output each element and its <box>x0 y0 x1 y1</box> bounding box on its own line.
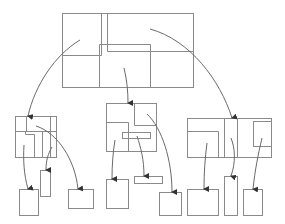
arrow-root-right <box>150 29 232 118</box>
arrow-right-leaf7 <box>204 143 207 189</box>
leaf-5 <box>135 177 163 184</box>
arrow-middle-leaf5 <box>137 136 144 176</box>
arrow-left-leaf2 <box>46 147 52 170</box>
leaf-nodes <box>20 171 263 216</box>
leaf-8 <box>225 177 238 216</box>
root-node <box>63 14 194 88</box>
tree-diagram <box>0 0 285 224</box>
edges <box>24 29 262 192</box>
arrow-right-leaf9 <box>253 138 262 189</box>
arrow-root-left <box>28 40 80 116</box>
leaf-4 <box>107 180 129 209</box>
leaf-6 <box>160 193 182 216</box>
leaf-3 <box>69 190 94 209</box>
leaf-7 <box>188 190 219 216</box>
arrow-left-leaf1 <box>24 145 28 189</box>
arrow-middle-leaf4 <box>112 140 115 179</box>
leaf-9 <box>244 190 263 216</box>
leaf-1 <box>20 190 39 216</box>
arrow-root-middle <box>124 68 128 103</box>
diagram-canvas <box>0 0 285 224</box>
leaf-2 <box>41 171 51 197</box>
